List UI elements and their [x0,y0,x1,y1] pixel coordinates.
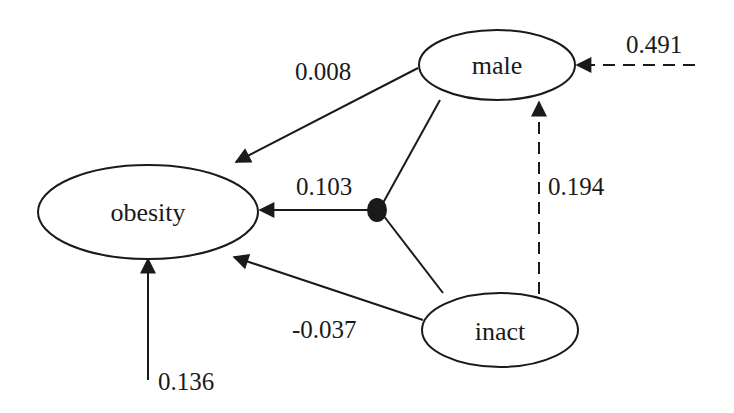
edge-label-error-obesity: 0.136 [158,368,214,395]
edge-inact-to-obesity: -0.037 [234,257,423,343]
edge-interaction-to-obesity: 0.103 [260,173,370,210]
edge-label-interaction-obesity: 0.103 [296,173,352,200]
path-diagram: 0.008 0.103 -0.037 0.136 0.491 0.194 obe… [0,0,734,413]
edge-label-inact-male: 0.194 [548,173,605,200]
node-obesity-label: obesity [110,198,185,227]
node-male: male [419,30,575,100]
node-inact: inact [422,293,578,367]
node-inact-label: inact [475,317,526,346]
line-male-junction [383,100,440,203]
node-male-label: male [472,51,523,80]
edge-inact-to-male: 0.194 [539,102,605,294]
edge-label-male-obesity: 0.008 [295,58,351,85]
interaction-junction-dot [367,198,387,222]
edge-error-to-obesity: 0.136 [148,259,214,395]
arrow-inact-obesity [234,257,423,320]
edge-male-to-obesity: 0.008 [236,58,418,162]
interaction-lines [383,100,443,293]
edge-label-error-male: 0.491 [626,31,682,58]
edge-label-inact-obesity: -0.037 [292,316,357,343]
line-inact-junction [383,215,443,293]
node-obesity: obesity [38,165,258,259]
edge-error-to-male: 0.491 [577,31,695,65]
